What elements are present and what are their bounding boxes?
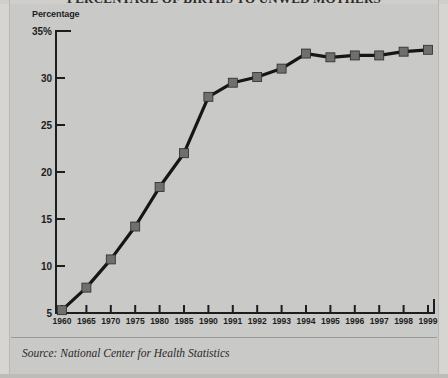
x-tick-label: 1975 <box>126 316 145 326</box>
x-axis-tick-labels: 1960196519701975198019851990199119921993… <box>0 0 448 378</box>
x-tick-label: 1997 <box>370 316 389 326</box>
x-tick-label: 1995 <box>321 316 340 326</box>
source-divider <box>11 337 437 338</box>
x-tick-label: 1960 <box>53 316 72 326</box>
x-tick-label: 1996 <box>345 316 364 326</box>
figure-root: PERCENTAGE OF BIRTHS TO UNWED MOTHERS Pe… <box>0 0 448 378</box>
x-tick-label: 1985 <box>175 316 194 326</box>
page-edge-bottom <box>0 374 448 378</box>
x-tick-label: 1999 <box>419 316 438 326</box>
x-tick-label: 1998 <box>394 316 413 326</box>
x-tick-label: 1970 <box>101 316 120 326</box>
source-note: Source: National Center for Health Stati… <box>22 347 230 359</box>
x-tick-label: 1993 <box>272 316 291 326</box>
x-tick-label: 1990 <box>199 316 218 326</box>
x-tick-label: 1994 <box>297 316 316 326</box>
x-tick-label: 1965 <box>77 316 96 326</box>
x-tick-label: 1992 <box>248 316 267 326</box>
x-tick-label: 1980 <box>150 316 169 326</box>
x-tick-label: 1991 <box>223 316 242 326</box>
